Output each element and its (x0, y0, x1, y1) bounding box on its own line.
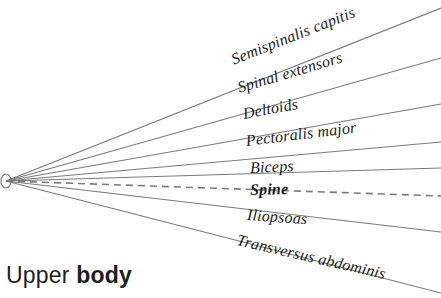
caption: Upper body (6, 262, 132, 289)
ray-line-pectoralis-major (6, 142, 441, 181)
ray-label-spine: Spine (250, 180, 289, 199)
ray-label-biceps: Biceps (250, 157, 295, 177)
fan-line-graphic (0, 0, 441, 298)
caption-prefix: Upper (6, 262, 76, 288)
ray-line-semispinalis-capitis (6, 8, 441, 181)
caption-strong: body (76, 262, 132, 288)
ray-lines (6, 8, 441, 293)
diagram-canvas: Semispinalis capitisSpinal extensorsDelt… (0, 0, 441, 298)
ray-line-spinal-extensors (6, 58, 441, 181)
